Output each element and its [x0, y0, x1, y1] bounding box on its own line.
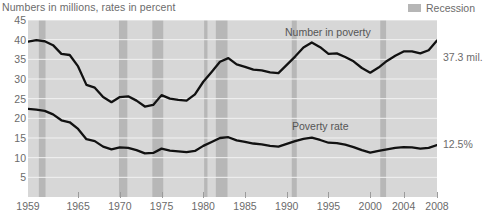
x-axis-tick-label: 1965 — [66, 201, 89, 212]
number-in-poverty-label: Number in poverty — [285, 27, 371, 38]
x-axis-tick-mark — [287, 192, 288, 198]
x-axis-tick-mark — [162, 192, 163, 198]
poverty-rate-label: Poverty rate — [292, 121, 349, 132]
x-axis-tick-label: 1990 — [275, 201, 298, 212]
x-axis-tick-label: 1995 — [317, 201, 340, 212]
x-axis-tick-mark — [437, 192, 438, 198]
x-axis-tick-label: 2008 — [425, 201, 448, 212]
x-axis-tick-mark — [203, 192, 204, 198]
x-axis-tick-label: 1985 — [233, 201, 256, 212]
x-axis-tick-mark — [328, 192, 329, 198]
x-axis-tick-mark — [245, 192, 246, 198]
x-axis-tick-label: 2004 — [392, 201, 415, 212]
x-axis-tick-label: 1970 — [108, 201, 131, 212]
x-axis-tick-mark — [78, 192, 79, 198]
x-axis-tick-label: 1975 — [150, 201, 173, 212]
x-axis-tick-label: 1959 — [16, 201, 39, 212]
poverty-rate-callout: 12.5% — [443, 139, 473, 150]
x-axis-tick-mark — [120, 192, 121, 198]
poverty-number-callout: 37.3 mil. — [443, 52, 483, 63]
x-axis-tick-label: 1980 — [192, 201, 215, 212]
x-axis-tick-mark — [404, 192, 405, 198]
x-axis-tick-label: 2000 — [359, 201, 382, 212]
x-axis-tick-mark — [370, 192, 371, 198]
